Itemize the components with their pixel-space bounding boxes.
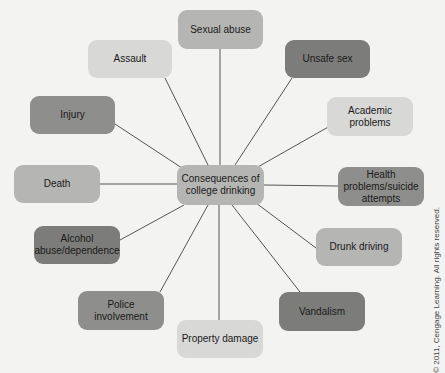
copyright-notice: © 2011, Cengage Learning. All rights res… bbox=[432, 207, 441, 373]
node-drunk-driving: Drunk driving bbox=[316, 228, 402, 266]
node-unsafe-sex: Unsafe sex bbox=[285, 40, 370, 78]
node-sexual-abuse: Sexual abuse bbox=[178, 10, 263, 49]
node-vandalism: Vandalism bbox=[279, 292, 365, 331]
concept-map: Consequences of college drinking Sexual … bbox=[0, 0, 445, 373]
node-property-damage: Property damage bbox=[177, 320, 263, 358]
node-academic-problems: Academic problems bbox=[327, 97, 413, 136]
node-injury: Injury bbox=[30, 96, 115, 134]
node-police-involvement: Police involvement bbox=[78, 291, 164, 330]
node-assault: Assault bbox=[88, 40, 172, 78]
node-alcohol-abuse: Alcohol abuse/dependence bbox=[34, 226, 120, 264]
node-health-problems: Health problems/suicide attempts bbox=[338, 167, 424, 206]
node-death: Death bbox=[14, 165, 100, 203]
node-center: Consequences of college drinking bbox=[177, 165, 264, 205]
